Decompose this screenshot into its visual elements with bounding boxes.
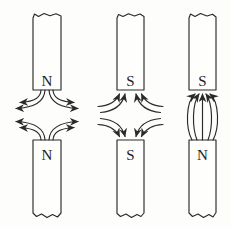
magnetic-field-diagram: N N S S <box>0 0 231 228</box>
pole-label-right-bottom: N <box>197 147 208 163</box>
pole-label-left-top: N <box>42 73 53 89</box>
pole-label-middle-top: S <box>126 73 134 89</box>
magnet-pair-right: S N <box>187 14 217 218</box>
diagram-canvas: N N S S <box>0 0 231 228</box>
pole-label-middle-bottom: S <box>126 147 134 163</box>
pole-label-left-bottom: N <box>42 147 53 163</box>
field-lines-left-bottom <box>16 122 78 141</box>
pole-label-right-top: S <box>198 73 206 89</box>
field-lines-middle-top <box>98 94 163 113</box>
field-lines-middle-bottom <box>98 119 163 137</box>
field-lines-left-top <box>16 90 78 109</box>
magnet-pair-left: N N <box>16 14 78 218</box>
magnet-pair-middle: S S <box>98 14 163 218</box>
field-lines-right-gap <box>187 94 217 140</box>
